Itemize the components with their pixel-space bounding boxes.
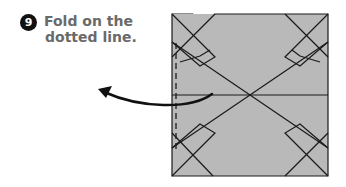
origami-diagram <box>0 0 346 187</box>
arrow-head-icon <box>98 86 112 98</box>
edge-notches <box>193 5 215 14</box>
